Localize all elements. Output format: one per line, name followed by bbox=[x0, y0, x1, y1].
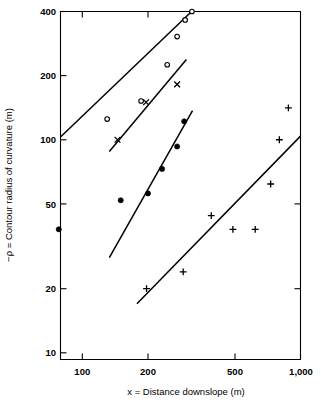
x-tick-label-1000: 1,000 bbox=[289, 366, 313, 377]
data-point bbox=[285, 105, 292, 112]
fit-lines-layer bbox=[61, 12, 301, 304]
y-tick-label-10: 10 bbox=[45, 347, 56, 358]
fit-line-series-crosses bbox=[109, 60, 186, 152]
data-point bbox=[183, 18, 188, 23]
chart-figure: 400 200 100 50 20 10 100 200 500 1,000 bbox=[0, 0, 321, 409]
log-log-scatter-plot: 400 200 100 50 20 10 100 200 500 1,000 bbox=[0, 0, 321, 409]
data-point bbox=[165, 62, 170, 67]
data-point bbox=[174, 81, 180, 87]
x-axis-title: x = Distance downslope (m) bbox=[127, 386, 244, 397]
axis-frame-path bbox=[61, 12, 301, 360]
right-axis-ticks bbox=[295, 204, 301, 289]
y-axis-tick-labels: 400 200 100 50 20 10 bbox=[40, 6, 56, 358]
y-axis-ticks bbox=[61, 12, 67, 353]
data-point bbox=[143, 99, 149, 105]
fit-line-series-plus bbox=[137, 136, 301, 304]
data-point bbox=[230, 226, 237, 233]
x-axis-ticks bbox=[82, 12, 300, 360]
data-markers-layer bbox=[56, 9, 292, 292]
data-point bbox=[56, 227, 61, 232]
y-tick-label-400: 400 bbox=[40, 6, 56, 17]
plot-frame bbox=[61, 12, 301, 360]
y-tick-label-200: 200 bbox=[40, 70, 56, 81]
data-point bbox=[208, 212, 215, 219]
y-axis-title: −ρ = Contour radius of curvature (m) bbox=[3, 108, 14, 262]
data-point bbox=[180, 268, 187, 275]
x-tick-label-100: 100 bbox=[74, 366, 90, 377]
fit-line-series-open-circles bbox=[61, 12, 192, 137]
fit-line-series-filled-circles bbox=[109, 111, 192, 258]
data-point bbox=[175, 34, 180, 39]
data-point bbox=[182, 119, 187, 124]
data-point bbox=[145, 191, 150, 196]
data-point bbox=[159, 166, 164, 171]
data-point bbox=[139, 99, 144, 104]
y-tick-label-20: 20 bbox=[45, 283, 56, 294]
x-tick-label-200: 200 bbox=[140, 366, 156, 377]
data-point bbox=[276, 136, 283, 143]
data-point bbox=[105, 117, 110, 122]
x-axis-tick-labels: 100 200 500 1,000 bbox=[74, 366, 313, 377]
y-tick-label-100: 100 bbox=[40, 134, 56, 145]
data-point bbox=[190, 9, 195, 14]
data-point bbox=[267, 181, 274, 188]
y-tick-label-50: 50 bbox=[45, 199, 56, 210]
data-point bbox=[175, 144, 180, 149]
data-point bbox=[118, 198, 123, 203]
x-tick-label-500: 500 bbox=[227, 366, 243, 377]
data-point bbox=[252, 226, 259, 233]
